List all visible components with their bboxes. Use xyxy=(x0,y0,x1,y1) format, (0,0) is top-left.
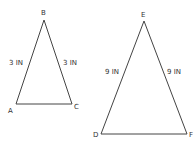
vertex-label-a: A xyxy=(8,107,13,115)
side-label-bc: 3 IN xyxy=(63,59,77,67)
triangle-def-outline xyxy=(101,21,187,134)
side-label-ab: 3 IN xyxy=(9,59,23,67)
triangles-diagram: B A C 3 IN 3 IN E D F 9 IN 9 IN xyxy=(0,0,196,145)
side-label-ef: 9 IN xyxy=(167,68,181,76)
side-label-de: 9 IN xyxy=(105,68,119,76)
vertex-label-b: B xyxy=(41,9,46,17)
vertex-label-f: F xyxy=(189,131,193,139)
vertex-label-d: D xyxy=(93,131,98,139)
triangle-abc: B A C 3 IN 3 IN xyxy=(8,9,79,115)
vertex-label-c: C xyxy=(74,103,79,111)
triangle-def: E D F 9 IN 9 IN xyxy=(93,11,193,139)
vertex-label-e: E xyxy=(141,11,145,19)
